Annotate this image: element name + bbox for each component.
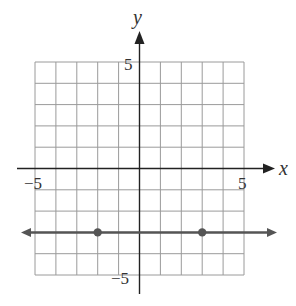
y-axis-label: y (131, 6, 142, 29)
x-axis-arrow-icon (263, 164, 275, 174)
line-right-arrow-icon (267, 228, 277, 237)
data-point (94, 228, 102, 236)
plotted-line (21, 228, 277, 237)
y-tick-min: −5 (111, 269, 129, 288)
coordinate-plane: x y −5 5 5 −5 (0, 0, 296, 306)
y-axis-arrow-icon (135, 31, 145, 44)
x-tick-min: −5 (24, 174, 42, 193)
y-tick-max: 5 (124, 55, 133, 74)
x-tick-max: 5 (238, 174, 247, 193)
data-point (198, 228, 206, 236)
line-left-arrow-icon (21, 228, 31, 237)
x-axis-label: x (278, 157, 288, 179)
